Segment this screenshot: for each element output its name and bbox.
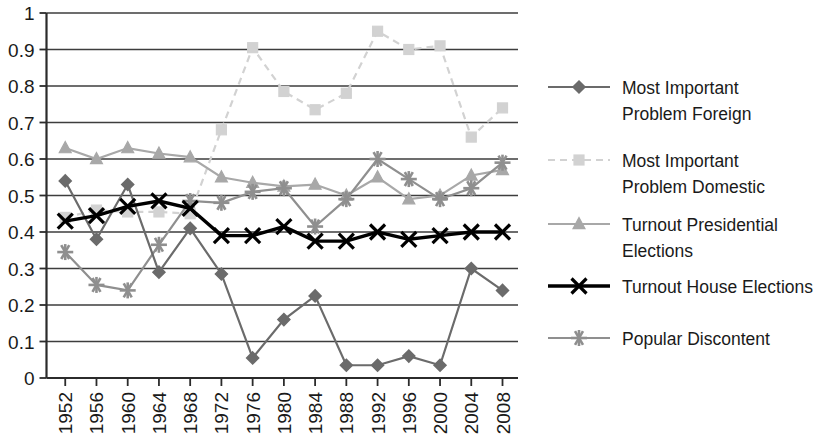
- x-tick-label: 1960: [118, 392, 139, 434]
- square-marker: [310, 105, 320, 115]
- x-axis-tick-labels: 1952195619601964196819721976198019841988…: [55, 392, 513, 435]
- line-chart: 10.90.80.70.60.50.40.30.20.10 1952195619…: [0, 0, 821, 437]
- legend-item-0[interactable]: Most ImportantProblem Foreign: [548, 78, 751, 124]
- legend-label: Most Important: [622, 151, 739, 171]
- square-marker: [248, 43, 258, 53]
- legend-label: Turnout Presidential: [622, 215, 778, 235]
- legend-item-2[interactable]: Turnout PresidentialElections: [548, 215, 778, 261]
- gridlines: [47, 13, 519, 342]
- diamond-marker: [340, 359, 352, 371]
- asterisk-marker: [151, 237, 167, 253]
- x-tick-label: 2000: [430, 392, 451, 434]
- x-tick-label: 1952: [55, 392, 76, 434]
- data-series-group: [57, 26, 510, 371]
- chart-legend: Most ImportantProblem ForeignMost Import…: [548, 78, 813, 349]
- x-tick-label: 1972: [211, 392, 232, 434]
- legend-label-line2: Elections: [622, 241, 693, 261]
- y-tick-label: 0: [24, 368, 35, 389]
- x-tick-label: 1988: [336, 392, 357, 434]
- x-tick-label: 2008: [493, 392, 514, 434]
- y-tick-label: 0.7: [8, 113, 34, 134]
- y-axis-tick-labels: 10.90.80.70.60.50.40.30.20.10: [8, 3, 46, 389]
- x-tick-label: 1980: [274, 392, 295, 434]
- y-tick-label: 0.6: [8, 149, 34, 170]
- square-marker: [373, 26, 383, 36]
- y-tick-label: 0.5: [8, 186, 34, 207]
- legend-label: Popular Discontent: [622, 329, 770, 349]
- legend-label: Most Important: [622, 78, 739, 98]
- x-tick-label: 1964: [149, 392, 170, 435]
- legend-label-line2: Problem Foreign: [622, 104, 751, 124]
- square-marker: [498, 103, 508, 113]
- series-line: [65, 201, 502, 241]
- y-tick-label: 0.8: [8, 76, 34, 97]
- diamond-marker: [59, 175, 71, 187]
- diamond-marker: [90, 233, 102, 245]
- asterisk-marker: [401, 171, 417, 187]
- diamond-marker: [122, 179, 134, 191]
- square-marker: [279, 86, 289, 96]
- diamond-marker: [573, 81, 585, 93]
- triangle-marker: [59, 142, 71, 153]
- asterisk-marker: [213, 195, 229, 211]
- y-tick-label: 0.1: [8, 332, 34, 353]
- triangle-marker: [309, 178, 321, 189]
- asterisk-marker: [120, 282, 136, 298]
- square-marker: [154, 207, 164, 217]
- triangle-marker: [215, 171, 227, 182]
- diamond-marker: [372, 359, 384, 371]
- square-marker: [466, 132, 476, 142]
- legend-item-4[interactable]: Popular Discontent: [548, 329, 770, 349]
- chart-canvas: 10.90.80.70.60.50.40.30.20.10 1952195619…: [0, 0, 821, 437]
- legend-item-3[interactable]: Turnout House Elections: [548, 277, 813, 297]
- square-marker: [216, 125, 226, 135]
- y-tick-label: 0.9: [8, 40, 34, 61]
- x-tick-label: 1968: [180, 392, 201, 434]
- x-tick-label: 1976: [243, 392, 264, 434]
- y-tick-label: 0.3: [8, 259, 34, 280]
- y-tick-label: 0.2: [8, 295, 34, 316]
- asterisk-marker: [571, 330, 587, 346]
- legend-label-line2: Problem Domestic: [622, 177, 765, 197]
- legend-label: Turnout House Elections: [622, 277, 813, 297]
- square-marker: [404, 45, 414, 55]
- x-tick-label: 1992: [368, 392, 389, 434]
- y-tick-label: 1: [24, 3, 35, 24]
- triangle-marker: [122, 142, 134, 153]
- legend-item-1[interactable]: Most ImportantProblem Domestic: [548, 151, 765, 197]
- triangle-marker: [372, 171, 384, 182]
- square-marker: [574, 155, 584, 165]
- diamond-marker: [403, 350, 415, 362]
- x-tick-label: 2004: [461, 392, 482, 435]
- x-tick-label: 1996: [399, 392, 420, 434]
- square-marker: [435, 41, 445, 51]
- x-tick-label: 1956: [86, 392, 107, 434]
- square-marker: [341, 88, 351, 98]
- diamond-marker: [434, 359, 446, 371]
- x-axis-tickmarks: [65, 378, 502, 386]
- y-tick-label: 0.4: [8, 222, 35, 243]
- x-tick-label: 1984: [305, 392, 326, 435]
- asterisk-marker: [432, 191, 448, 207]
